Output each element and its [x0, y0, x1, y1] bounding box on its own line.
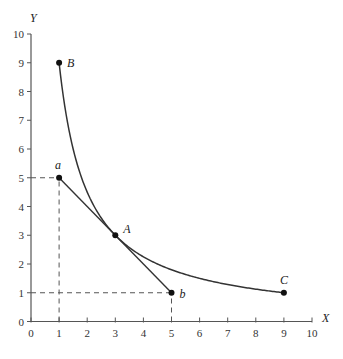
y-tick-label: 7	[19, 114, 25, 126]
y-axis-label: Y	[30, 11, 38, 25]
y-tick-label: 4	[19, 201, 25, 213]
point-label: C	[280, 273, 289, 287]
x-tick-label: 1	[56, 327, 62, 339]
x-axis-label: X	[321, 311, 330, 325]
point-b	[169, 290, 175, 296]
x-tick-label: 0	[28, 327, 34, 339]
x-tick-label: 7	[225, 327, 231, 339]
y-tick-label: 5	[19, 172, 25, 184]
x-tick-label: 10	[307, 327, 319, 339]
chart: 012345678910012345678910 BaAbC X Y	[0, 0, 343, 359]
point-B	[56, 60, 62, 66]
y-tick-label: 0	[19, 316, 25, 328]
y-tick-label: 6	[19, 143, 25, 155]
point-label: b	[180, 287, 186, 301]
y-tick-label: 10	[13, 28, 25, 40]
points: BaAbC	[55, 56, 289, 301]
y-tick-label: 3	[19, 229, 25, 241]
y-tick-label: 8	[19, 86, 25, 98]
point-A	[112, 232, 118, 238]
point-a	[56, 175, 62, 181]
x-tick-label: 4	[141, 327, 147, 339]
point-C	[281, 290, 287, 296]
y-tick-label: 1	[19, 287, 25, 299]
x-tick-label: 8	[253, 327, 259, 339]
x-tick-label: 9	[281, 327, 287, 339]
y-tick-label: 9	[19, 57, 25, 69]
point-label: A	[122, 222, 131, 236]
series	[59, 63, 284, 293]
x-tick-label: 5	[169, 327, 175, 339]
point-label: B	[67, 56, 75, 70]
x-tick-label: 3	[113, 327, 119, 339]
x-tick-label: 2	[84, 327, 90, 339]
dashed-guides	[31, 178, 172, 322]
x-tick-label: 6	[197, 327, 203, 339]
point-label: a	[55, 158, 61, 172]
indifference-curve	[59, 63, 284, 293]
y-tick-label: 2	[19, 258, 25, 270]
